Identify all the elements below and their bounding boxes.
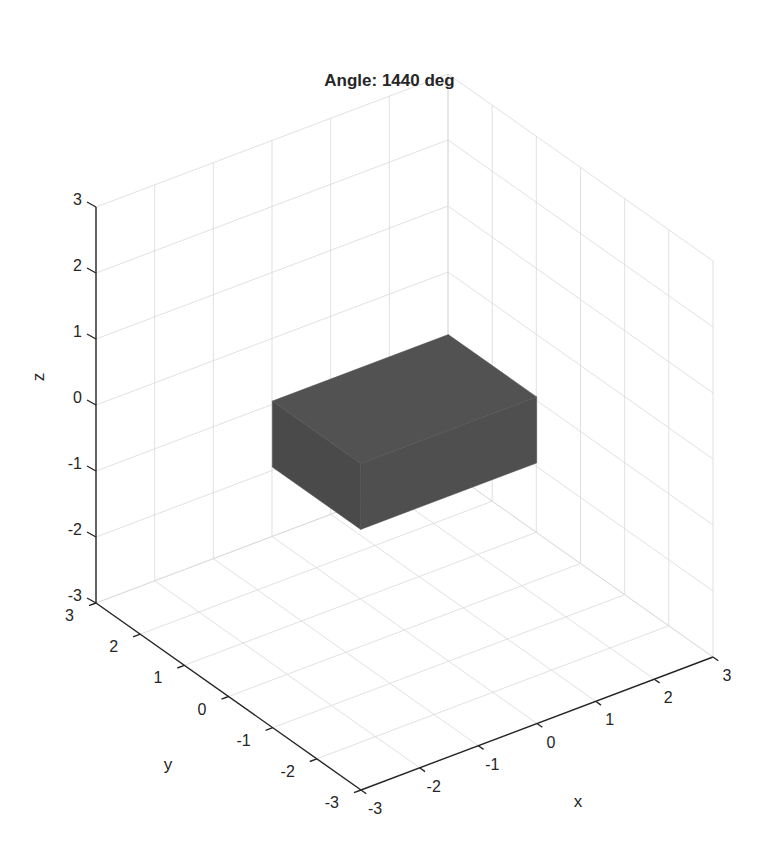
z-tick (87, 532, 96, 537)
x-tick (713, 657, 718, 661)
z-tick (87, 268, 96, 273)
x-tick (420, 768, 425, 772)
x-tick-label: 0 (547, 734, 556, 751)
grid-line (140, 501, 492, 634)
x-tick (654, 679, 659, 683)
y-tick-label: -1 (236, 732, 250, 749)
chart-title: Angle: 1440 deg (0, 71, 779, 91)
x-tick (596, 701, 601, 705)
z-tick (87, 400, 96, 405)
x-axis-label: x (574, 792, 583, 811)
z-tick-label: -2 (68, 521, 82, 538)
z-tick (87, 466, 96, 471)
x-tick-label: -3 (368, 800, 382, 817)
figure: Angle: 1440 deg -3-2-10123-3-2-10123-3-2… (0, 0, 779, 854)
y-tick (177, 665, 184, 668)
y-tick (354, 790, 361, 793)
y-tick-label: 1 (153, 669, 162, 686)
z-tick-label: -1 (68, 455, 82, 472)
x-tick (478, 746, 483, 750)
z-tick-label: -3 (68, 587, 82, 604)
y-axis-label: y (164, 755, 173, 774)
y-tick (266, 728, 273, 731)
y-tick (310, 759, 317, 762)
z-tick-label: 2 (73, 257, 82, 274)
plot-area: -3-2-10123-3-2-10123-3-2-10123 xyz (0, 0, 779, 854)
x-tick-label: 2 (664, 689, 673, 706)
z-tick (87, 334, 96, 339)
grid-line (229, 564, 581, 697)
grid-line (184, 532, 536, 665)
x-tick (537, 724, 542, 728)
y-tick (133, 634, 140, 637)
grid-line (273, 595, 625, 728)
z-tick-label: 1 (73, 323, 82, 340)
z-tick (87, 598, 96, 603)
y-tick (89, 603, 96, 606)
rectangular-box (272, 335, 536, 530)
y-tick-label: 2 (109, 638, 118, 655)
x-tick-label: 3 (723, 667, 732, 684)
grid-line (317, 626, 669, 759)
z-axis-label: z (29, 373, 48, 382)
y-tick-label: -3 (325, 794, 339, 811)
x-tick (361, 790, 366, 794)
z-tick (87, 202, 96, 207)
y-tick-label: 3 (65, 607, 74, 624)
y-tick (222, 697, 229, 700)
y-tick-label: 0 (198, 701, 207, 718)
x-tick-label: 1 (605, 711, 614, 728)
y-tick-label: -2 (281, 763, 295, 780)
x-tick-label: -2 (427, 778, 441, 795)
z-tick-label: 0 (73, 389, 82, 406)
x-tick-label: -1 (485, 756, 499, 773)
z-tick-label: 3 (73, 191, 82, 208)
